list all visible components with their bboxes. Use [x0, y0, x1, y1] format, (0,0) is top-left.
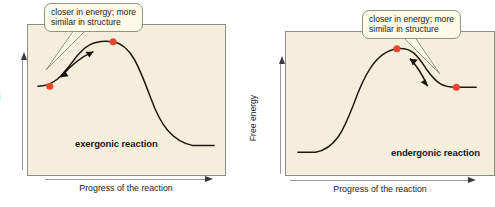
x-axis-arrow-icon [468, 177, 476, 183]
x-axis-exergonic: Progress of the reaction [45, 176, 207, 202]
y-axis-arrow-icon [21, 52, 27, 60]
callout-line-2: similar in structure [51, 17, 136, 27]
callout-tail-exergonic [30, 28, 100, 73]
callout-line-2: similar in structure [369, 24, 454, 34]
marker-transition-state [110, 38, 117, 45]
callout-endergonic: closer in energy; more similar in struct… [362, 10, 461, 39]
reaction-label-exergonic: exergonic reaction [75, 138, 158, 149]
callout-tail-shape [402, 36, 440, 74]
y-axis-label: Free energy [248, 95, 258, 141]
marker-product [453, 84, 460, 91]
marker-reactant [46, 83, 53, 90]
callout-line-1: closer in energy; more [51, 7, 136, 17]
x-axis-endergonic: Progress of the reaction [290, 177, 470, 203]
x-axis-label: Progress of the reaction [333, 184, 426, 194]
y-axis-arrow-icon [279, 56, 285, 64]
y-axis-line [22, 58, 23, 170]
x-axis-arrow-icon [205, 176, 213, 182]
panel-endergonic: endergonic reaction closer in energy; mo… [244, 0, 488, 207]
y-axis-line [280, 62, 281, 174]
callout-tail-shape [46, 30, 86, 70]
callout-tail-endergonic [374, 34, 454, 79]
reaction-label-endergonic: endergonic reaction [391, 147, 480, 158]
x-axis-label: Progress of the reaction [79, 183, 172, 193]
comparison-arrow-head-lower [421, 79, 428, 86]
x-axis-line [290, 180, 470, 181]
callout-line-1: closer in energy; more [369, 14, 454, 24]
y-axis-endergonic: Free energy [260, 62, 282, 174]
y-axis-exergonic: Free energy [2, 58, 24, 170]
callout-exergonic: closer in energy; more similar in struct… [44, 3, 143, 32]
panel-exergonic: exergonic reaction closer in energy; mor… [0, 0, 244, 207]
x-axis-line [45, 179, 207, 180]
